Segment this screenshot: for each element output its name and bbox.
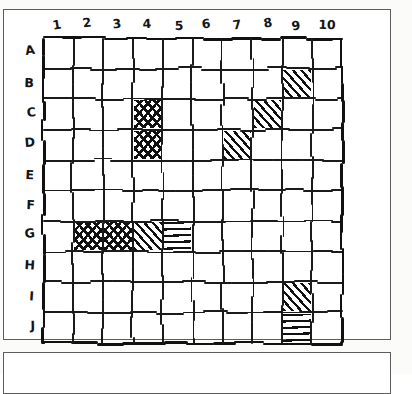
- grid-cell-J9[interactable]: [282, 313, 312, 344]
- grid-cell-B9[interactable]: [282, 69, 312, 100]
- grid-cell-D10[interactable]: [312, 130, 342, 161]
- grid-cell-I10[interactable]: [312, 282, 342, 313]
- grid-cell-H10[interactable]: [312, 252, 342, 283]
- grid-cell-C4[interactable]: [133, 99, 163, 130]
- grid-cell-I4[interactable]: [133, 282, 163, 313]
- grid-cell-J1[interactable]: [43, 313, 73, 344]
- grid-cell-C7[interactable]: [222, 99, 252, 130]
- grid-cell-G5[interactable]: [163, 221, 193, 252]
- grid-cell-B2[interactable]: [73, 69, 103, 100]
- grid-cell-D4[interactable]: [133, 130, 163, 161]
- grid-cell-E8[interactable]: [252, 160, 282, 191]
- grid-cell-B4[interactable]: [133, 69, 163, 100]
- grid-cell-H4[interactable]: [133, 252, 163, 283]
- grid-cell-J6[interactable]: [193, 313, 223, 344]
- grid-cell-D9[interactable]: [282, 130, 312, 161]
- grid-cell-J8[interactable]: [252, 313, 282, 344]
- grid-cell-D6[interactable]: [193, 130, 223, 161]
- grid-cell-E9[interactable]: [282, 160, 312, 191]
- grid-cell-H5[interactable]: [163, 252, 193, 283]
- grid-cell-A9[interactable]: [282, 38, 312, 69]
- grid-cell-A4[interactable]: [133, 38, 163, 69]
- grid-cell-I2[interactable]: [73, 282, 103, 313]
- grid-cell-C3[interactable]: [103, 99, 133, 130]
- grid-cell-I3[interactable]: [103, 282, 133, 313]
- grid-cell-G6[interactable]: [193, 221, 223, 252]
- grid-cell-C5[interactable]: [163, 99, 193, 130]
- grid-cell-H6[interactable]: [193, 252, 223, 283]
- grid-cell-F10[interactable]: [312, 191, 342, 222]
- grid-cell-E4[interactable]: [133, 160, 163, 191]
- grid-cell-H2[interactable]: [73, 252, 103, 283]
- grid-cell-H7[interactable]: [222, 252, 252, 283]
- grid-cell-I1[interactable]: [43, 282, 73, 313]
- grid-cell-G4[interactable]: [133, 221, 163, 252]
- grid-cell-B3[interactable]: [103, 69, 133, 100]
- grid-cell-F2[interactable]: [73, 191, 103, 222]
- grid-cell-A3[interactable]: [103, 38, 133, 69]
- grid-cell-D2[interactable]: [73, 130, 103, 161]
- grid-cell-G2[interactable]: [73, 221, 103, 252]
- grid-cell-H1[interactable]: [43, 252, 73, 283]
- grid-cell-C2[interactable]: [73, 99, 103, 130]
- grid-cell-B7[interactable]: [222, 69, 252, 100]
- grid-cell-F8[interactable]: [252, 191, 282, 222]
- grid-cell-A10[interactable]: [312, 38, 342, 69]
- grid-cell-E2[interactable]: [73, 160, 103, 191]
- grid-cell-C1[interactable]: [43, 99, 73, 130]
- grid-cell-I7[interactable]: [222, 282, 252, 313]
- grid-cell-E5[interactable]: [163, 160, 193, 191]
- grid-cell-A5[interactable]: [163, 38, 193, 69]
- grid-cell-J5[interactable]: [163, 313, 193, 344]
- grid-cell-D8[interactable]: [252, 130, 282, 161]
- grid-cell-F1[interactable]: [43, 191, 73, 222]
- grid-cell-F9[interactable]: [282, 191, 312, 222]
- grid-cell-A2[interactable]: [73, 38, 103, 69]
- grid-cell-G9[interactable]: [282, 221, 312, 252]
- grid-cell-H3[interactable]: [103, 252, 133, 283]
- grid-cell-A1[interactable]: [43, 38, 73, 69]
- grid-cell-B10[interactable]: [312, 69, 342, 100]
- grid-cell-E1[interactable]: [43, 160, 73, 191]
- grid-cell-J7[interactable]: [222, 313, 252, 344]
- grid-cell-F5[interactable]: [163, 191, 193, 222]
- grid-cell-H8[interactable]: [252, 252, 282, 283]
- grid-cell-F6[interactable]: [193, 191, 223, 222]
- grid-cell-D5[interactable]: [163, 130, 193, 161]
- grid[interactable]: [43, 38, 342, 343]
- grid-cell-J10[interactable]: [312, 313, 342, 344]
- grid-cell-G1[interactable]: [43, 221, 73, 252]
- grid-cell-G10[interactable]: [312, 221, 342, 252]
- grid-cell-C8[interactable]: [252, 99, 282, 130]
- grid-cell-I9[interactable]: [282, 282, 312, 313]
- grid-cell-G3[interactable]: [103, 221, 133, 252]
- grid-cell-E7[interactable]: [222, 160, 252, 191]
- grid-cell-I8[interactable]: [252, 282, 282, 313]
- grid-cell-G8[interactable]: [252, 221, 282, 252]
- grid-cell-F7[interactable]: [222, 191, 252, 222]
- grid-cell-B6[interactable]: [193, 69, 223, 100]
- grid-cell-F4[interactable]: [133, 191, 163, 222]
- grid-cell-J2[interactable]: [73, 313, 103, 344]
- grid-cell-B5[interactable]: [163, 69, 193, 100]
- grid-cell-D7[interactable]: [222, 130, 252, 161]
- grid-cell-C6[interactable]: [193, 99, 223, 130]
- grid-cell-C10[interactable]: [312, 99, 342, 130]
- grid-cell-H9[interactable]: [282, 252, 312, 283]
- grid-cell-E6[interactable]: [193, 160, 223, 191]
- grid-cell-A7[interactable]: [222, 38, 252, 69]
- grid-cell-B8[interactable]: [252, 69, 282, 100]
- grid-cell-A6[interactable]: [193, 38, 223, 69]
- grid-cell-A8[interactable]: [252, 38, 282, 69]
- grid-cell-J3[interactable]: [103, 313, 133, 344]
- grid-cell-D3[interactable]: [103, 130, 133, 161]
- grid-cell-I6[interactable]: [193, 282, 223, 313]
- grid-cell-D1[interactable]: [43, 130, 73, 161]
- grid-cell-J4[interactable]: [133, 313, 163, 344]
- grid-cell-F3[interactable]: [103, 191, 133, 222]
- grid-cell-C9[interactable]: [282, 99, 312, 130]
- grid-cell-I5[interactable]: [163, 282, 193, 313]
- grid-cell-E3[interactable]: [103, 160, 133, 191]
- grid-cell-B1[interactable]: [43, 69, 73, 100]
- grid-cell-E10[interactable]: [312, 160, 342, 191]
